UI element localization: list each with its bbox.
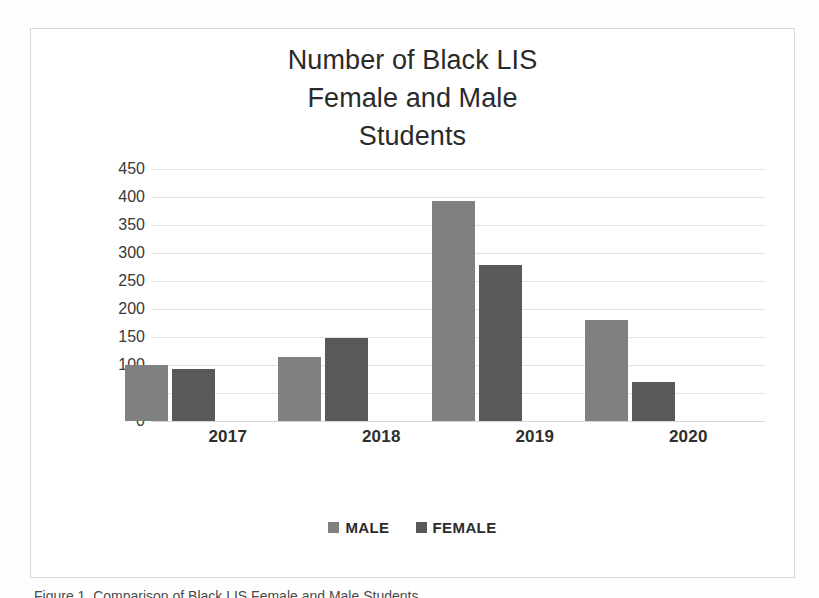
chart-title: Number of Black LIS Female and Male Stud… — [31, 41, 794, 155]
chart-legend: MALEFEMALE — [31, 519, 794, 536]
axis-baseline — [151, 421, 765, 422]
x-axis-tick-label: 2020 — [612, 427, 766, 447]
legend-item-female[interactable]: FEMALE — [416, 519, 497, 536]
bars-layer — [93, 169, 765, 421]
legend-swatch-icon — [416, 522, 427, 533]
bar-group — [432, 169, 522, 421]
x-axis: 2017201820192020 — [151, 427, 765, 457]
figure-caption: Figure 1. Comparison of Black LIS Female… — [34, 588, 734, 598]
bar-female-2020[interactable] — [632, 382, 675, 421]
bar-group — [585, 169, 675, 421]
x-axis-tick-label: 2019 — [458, 427, 612, 447]
legend-item-male[interactable]: MALE — [328, 519, 389, 536]
x-axis-tick-label: 2017 — [151, 427, 305, 447]
bar-female-2019[interactable] — [479, 265, 522, 421]
x-axis-tick-label: 2018 — [305, 427, 459, 447]
bar-male-2019[interactable] — [432, 201, 475, 421]
bar-group — [278, 169, 368, 421]
legend-label: FEMALE — [433, 519, 497, 536]
plot-area: 450400350300250200150100500 201720182019… — [93, 169, 765, 451]
legend-swatch-icon — [328, 522, 339, 533]
scanned-page: Number of Black LIS Female and Male Stud… — [0, 0, 819, 598]
bar-male-2018[interactable] — [278, 357, 321, 421]
bar-male-2017[interactable] — [125, 365, 168, 421]
legend-label: MALE — [345, 519, 389, 536]
bar-female-2017[interactable] — [172, 369, 215, 421]
bar-male-2020[interactable] — [585, 320, 628, 421]
chart-frame: Number of Black LIS Female and Male Stud… — [30, 28, 795, 578]
bar-female-2018[interactable] — [325, 338, 368, 421]
bar-group — [125, 169, 215, 421]
